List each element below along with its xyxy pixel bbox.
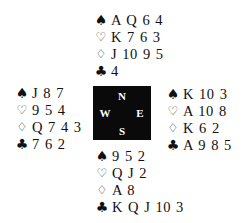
south-spades: 9 5 2	[112, 148, 146, 164]
compass-box: N W E S	[93, 86, 151, 140]
heart-icon: ♡	[94, 29, 108, 45]
diamond-icon: ♢	[15, 119, 29, 135]
heart-icon: ♡	[15, 102, 29, 118]
south-clubs: K Q J 10 3	[112, 199, 184, 215]
north-hearts: K 7 6 3	[111, 29, 161, 45]
west-clubs: 7 6 2	[32, 136, 66, 152]
east-clubs: A 9 8 5	[183, 137, 232, 153]
north-diamonds: J 10 9 5	[111, 46, 164, 62]
north-spades: A Q 6 4	[111, 12, 163, 28]
diamond-icon: ♢	[166, 120, 180, 136]
club-icon: ♣	[166, 137, 180, 153]
club-icon: ♣	[15, 136, 29, 152]
heart-icon: ♡	[166, 103, 180, 119]
club-icon: ♣	[94, 63, 108, 79]
east-hearts: A 10 8	[183, 103, 227, 119]
west-spades: J 8 7	[32, 85, 64, 101]
south-diamonds: A 8	[112, 182, 135, 198]
west-hearts: 9 5 4	[32, 102, 66, 118]
compass-east-label: E	[134, 107, 146, 119]
south-hearts: Q J 2	[112, 165, 147, 181]
north-clubs: 4	[111, 63, 119, 79]
spade-icon: ♠	[15, 85, 29, 101]
compass-south-label: S	[116, 125, 128, 137]
east-spades: K 10 3	[183, 86, 227, 102]
compass-west-label: W	[99, 107, 111, 119]
west-diamonds: Q 7 4 3	[32, 119, 82, 135]
diamond-icon: ♢	[95, 182, 109, 198]
east-diamonds: K 6 2	[183, 120, 220, 136]
compass-north-label: N	[116, 90, 128, 102]
spade-icon: ♠	[94, 12, 108, 28]
club-icon: ♣	[95, 199, 109, 215]
heart-icon: ♡	[95, 165, 109, 181]
spade-icon: ♠	[166, 86, 180, 102]
diamond-icon: ♢	[94, 46, 108, 62]
spade-icon: ♠	[95, 148, 109, 164]
